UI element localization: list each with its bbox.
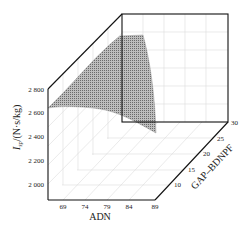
x-tick: 84 — [126, 203, 134, 211]
x-tick: 79 — [104, 203, 112, 211]
y-axis-label: GAP–BDNPF — [188, 142, 235, 192]
z-tick: 2 600 — [28, 109, 44, 117]
x-axis-ticks: 69 74 79 84 89 — [60, 203, 160, 211]
z-axis-label: Isp/(N·s/kg) — [11, 105, 23, 151]
z-tick: 2 000 — [28, 181, 44, 189]
x-tick: 69 — [60, 203, 68, 211]
z-axis-ticks: 2 000 2 200 2 400 2 600 2 800 — [28, 86, 44, 189]
x-tick: 89 — [152, 203, 160, 211]
y-tick: 25 — [217, 135, 225, 143]
x-axis-label: ADN — [89, 211, 111, 222]
y-tick: 30 — [231, 119, 239, 127]
x-tick: 74 — [82, 203, 90, 211]
z-tick: 2 400 — [28, 133, 44, 141]
z-tick: 2 200 — [28, 157, 44, 165]
y-tick: 10 — [174, 181, 182, 189]
y-tick: 15 — [188, 166, 196, 174]
y-tick: 20 — [203, 150, 211, 158]
z-tick: 2 800 — [28, 86, 44, 94]
response-surface — [48, 35, 156, 133]
surface-chart: 2 000 2 200 2 400 2 600 2 800 Isp/(N·s/k… — [0, 0, 247, 226]
